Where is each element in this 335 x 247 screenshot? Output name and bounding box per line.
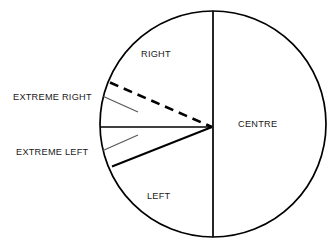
sector-label-extreme-left: EXTREME LEFT [16, 147, 89, 157]
spectrum-circle-diagram: RIGHT CENTRE LEFT EXTREME RIGHT EXTREME … [0, 0, 335, 247]
sector-label-right: RIGHT [141, 49, 171, 59]
sector-label-extreme-right: EXTREME RIGHT [13, 92, 92, 102]
diagram-canvas: RIGHT CENTRE LEFT EXTREME RIGHT EXTREME … [0, 0, 335, 247]
sector-label-centre: CENTRE [238, 119, 277, 129]
sector-label-left: LEFT [147, 191, 171, 201]
